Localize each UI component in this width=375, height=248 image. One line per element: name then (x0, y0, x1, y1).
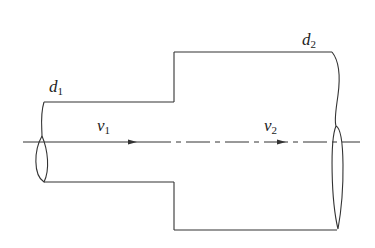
small-pipe-section-ellipse (36, 136, 48, 182)
label-v2: v2 (264, 116, 277, 136)
pipe-expansion-diagram: d1 d2 v1 v2 (0, 0, 375, 248)
small-pipe-break-curve (42, 102, 45, 136)
flow-arrow-v2-icon (277, 140, 286, 145)
label-v1: v1 (97, 116, 110, 136)
large-pipe (174, 52, 343, 230)
label-d1: d1 (49, 77, 63, 97)
large-pipe-break-curve (332, 52, 339, 126)
flow-arrow-v1-icon (128, 140, 137, 145)
large-pipe-section-ellipse (332, 126, 343, 229)
label-d2: d2 (302, 30, 316, 50)
